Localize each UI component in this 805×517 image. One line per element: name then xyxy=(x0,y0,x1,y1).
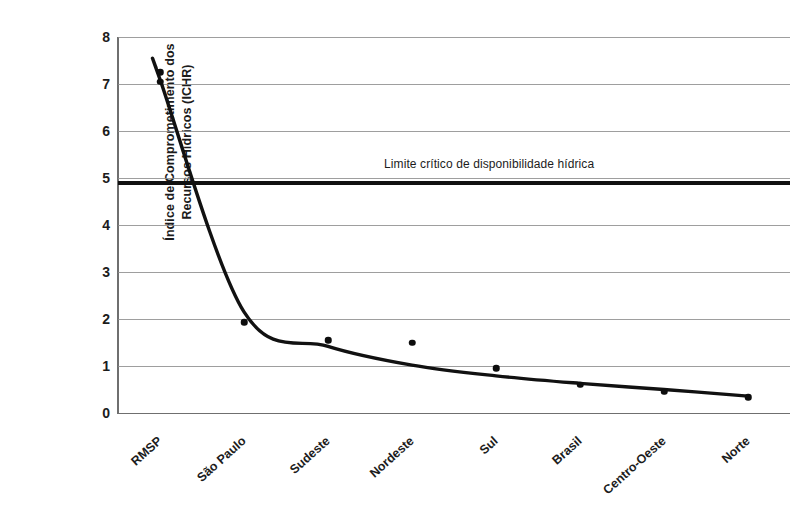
data-point-brasil xyxy=(577,382,584,389)
y-tick-label-3: 3 xyxy=(88,264,110,280)
x-tick-label-nordeste: Nordeste xyxy=(296,434,417,517)
y-tick-label-4: 4 xyxy=(88,217,110,233)
fit-curve-path xyxy=(152,58,748,396)
fit-curve xyxy=(118,37,790,413)
y-tick-label-0: 0 xyxy=(88,405,110,421)
x-tick-label-brasil: Brasil xyxy=(464,434,585,517)
x-tick-label-centro-oeste: Centro-Oeste xyxy=(548,434,669,517)
y-tick-label-5: 5 xyxy=(88,170,110,186)
y-tick-label-7: 7 xyxy=(88,76,110,92)
x-tick-label-s-o-paulo: São Paulo xyxy=(128,434,249,517)
y-tick-label-1: 1 xyxy=(88,358,110,374)
x-tick-label-sul: Sul xyxy=(380,434,501,517)
data-point-norte xyxy=(745,394,752,401)
data-point-nordeste xyxy=(409,339,416,346)
data-point-rmsp xyxy=(157,69,164,76)
x-tick-label-sudeste: Sudeste xyxy=(212,434,333,517)
plot-area: Limite crítico de disponibilidade hídric… xyxy=(118,37,790,413)
data-point-centro-oeste xyxy=(661,389,668,396)
data-point-extra-1 xyxy=(157,78,164,85)
y-axis-tick-labels: 012345678 xyxy=(84,0,110,517)
critical-threshold-label: Limite crítico de disponibilidade hídric… xyxy=(384,157,594,171)
data-point-sul xyxy=(493,365,500,372)
x-tick-label-norte: Norte xyxy=(632,434,753,517)
ichr-chart-figure: Índice de Comprometimento dos Recursos H… xyxy=(0,0,805,517)
data-point-sudeste xyxy=(325,337,332,344)
y-tick-label-2: 2 xyxy=(88,311,110,327)
y-tick-label-8: 8 xyxy=(88,29,110,45)
data-point-s-o-paulo xyxy=(241,319,248,326)
critical-threshold-line xyxy=(118,181,790,185)
y-tick-label-6: 6 xyxy=(88,123,110,139)
